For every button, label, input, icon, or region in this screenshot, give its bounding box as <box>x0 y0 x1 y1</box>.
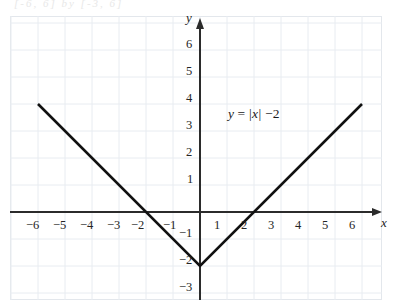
xtick-label-neg3: −3 <box>107 218 120 233</box>
ytick-label-neg2: −2 <box>179 253 192 268</box>
equation-constant: 2 <box>273 106 280 121</box>
graph-figure: [-6, 6] by [-3, 6] <box>0 0 394 306</box>
ytick-label-3: 3 <box>186 118 192 133</box>
xtick-label-6: 6 <box>349 218 355 233</box>
xtick-label-2: 2 <box>241 218 247 233</box>
ytick-label-neg3: −3 <box>179 280 192 295</box>
equation-minus: − <box>265 106 273 121</box>
xtick-label-neg1: −1 <box>163 218 176 233</box>
ytick-label-5: 5 <box>186 64 192 79</box>
xtick-label-5: 5 <box>322 218 328 233</box>
xtick-label-4: 4 <box>295 218 301 233</box>
x-axis-label: x <box>381 215 387 231</box>
ytick-label-1: 1 <box>187 172 193 187</box>
equation-equals: = <box>237 106 245 121</box>
equation-annotation: y = |x| −2 <box>228 106 280 122</box>
abs-close-bar: | <box>258 106 262 121</box>
xtick-label-neg4: −4 <box>80 218 93 233</box>
ytick-label-2: 2 <box>186 145 192 160</box>
tick-label-layer: −6 −5 −4 −3 −2 −1 1 2 3 4 5 6 6 5 4 3 2 … <box>0 0 394 306</box>
ytick-label-4: 4 <box>186 91 192 106</box>
equation-lhs: y <box>228 106 234 121</box>
ytick-label-neg1: −1 <box>179 226 192 241</box>
xtick-label-neg6: −6 <box>26 218 39 233</box>
xtick-label-neg2: −2 <box>131 218 144 233</box>
y-axis-label: y <box>186 10 192 26</box>
xtick-label-1: 1 <box>214 218 220 233</box>
xtick-label-neg5: −5 <box>53 218 66 233</box>
ytick-label-6: 6 <box>186 37 192 52</box>
xtick-label-3: 3 <box>268 218 274 233</box>
